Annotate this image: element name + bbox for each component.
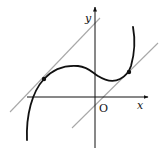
lower-tangent-line	[72, 43, 158, 128]
x-axis-label: x	[137, 99, 144, 112]
right-tangent-point	[127, 70, 131, 74]
y-axis-label: y	[84, 12, 92, 25]
cubic-curve	[27, 27, 134, 140]
function-diagram: y x O	[0, 0, 164, 159]
origin-label: O	[99, 102, 108, 115]
left-tangent-point	[42, 77, 46, 81]
upper-tangent-line	[10, 18, 100, 112]
